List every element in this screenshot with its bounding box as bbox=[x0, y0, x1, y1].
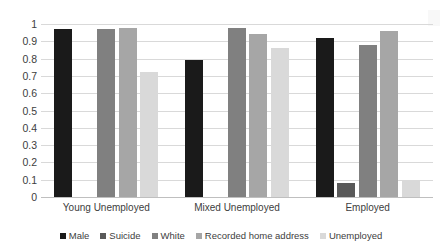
x-axis-category-label: Young Unemployed bbox=[41, 201, 172, 215]
y-axis: 00.10.20.30.40.50.60.70.80.91 bbox=[0, 24, 37, 197]
legend-item[interactable]: Male bbox=[60, 231, 90, 241]
bar bbox=[402, 180, 420, 197]
y-axis-tick-label: 0.9 bbox=[0, 36, 37, 46]
y-axis-tick-label: 0.5 bbox=[0, 106, 37, 116]
bar bbox=[185, 60, 203, 197]
y-axis-tick-label: 0.6 bbox=[0, 88, 37, 98]
bar bbox=[97, 29, 115, 197]
y-axis-tick-label: 0.1 bbox=[0, 175, 37, 185]
legend-swatch-icon bbox=[320, 233, 326, 239]
legend-swatch-icon bbox=[196, 233, 202, 239]
y-axis-tick-label: 1 bbox=[0, 19, 37, 29]
bar-group bbox=[302, 24, 433, 197]
x-axis-category-label: Employed bbox=[302, 201, 433, 215]
legend-label: Male bbox=[69, 231, 90, 241]
plot-area bbox=[41, 24, 433, 197]
legend-item[interactable]: Suicide bbox=[100, 231, 140, 241]
bar-group bbox=[172, 24, 303, 197]
legend-item[interactable]: Unemployed bbox=[320, 231, 382, 241]
legend-swatch-icon bbox=[60, 233, 66, 239]
legend-label: Unemployed bbox=[329, 231, 382, 241]
x-axis-category-label: Mixed Unemployed bbox=[172, 201, 303, 215]
bar bbox=[380, 31, 398, 197]
legend-item[interactable]: White bbox=[152, 231, 185, 241]
legend-item[interactable]: Recorded home address bbox=[196, 231, 309, 241]
x-axis-labels: Young UnemployedMixed UnemployedEmployed bbox=[41, 201, 433, 217]
bar bbox=[119, 28, 137, 197]
y-axis-tick-label: 0 bbox=[0, 192, 37, 202]
chart-legend: MaleSuicideWhiteRecorded home addressUne… bbox=[0, 228, 442, 244]
bar bbox=[316, 38, 334, 197]
legend-swatch-icon bbox=[152, 233, 158, 239]
bar-group bbox=[41, 24, 172, 197]
legend-label: Recorded home address bbox=[205, 231, 309, 241]
bar bbox=[359, 45, 377, 197]
bar bbox=[140, 72, 158, 197]
y-axis-tick-label: 0.8 bbox=[0, 54, 37, 64]
y-axis-tick-label: 0.7 bbox=[0, 71, 37, 81]
legend-label: White bbox=[161, 231, 185, 241]
bar bbox=[249, 34, 267, 197]
axis-baseline bbox=[41, 197, 433, 198]
y-axis-tick-label: 0.3 bbox=[0, 140, 37, 150]
y-axis-tick-label: 0.4 bbox=[0, 123, 37, 133]
legend-label: Suicide bbox=[109, 231, 140, 241]
legend-swatch-icon bbox=[100, 233, 106, 239]
bar bbox=[337, 183, 355, 197]
bar bbox=[228, 28, 246, 197]
y-axis-tick-label: 0.2 bbox=[0, 157, 37, 167]
bar bbox=[271, 48, 289, 197]
bar bbox=[54, 29, 72, 197]
bar-chart: 00.10.20.30.40.50.60.70.80.91 Young Unem… bbox=[0, 0, 442, 247]
